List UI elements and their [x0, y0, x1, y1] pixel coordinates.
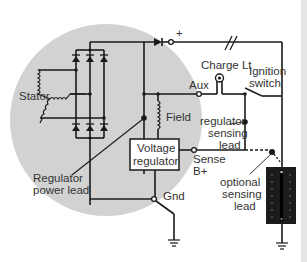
aux-label: Aux — [189, 79, 209, 91]
plus-label: + — [176, 27, 183, 39]
regulator-power-label-2: power lead — [33, 184, 89, 196]
optional-sensing-label-1: optional — [220, 176, 260, 188]
charge-lamp-icon — [216, 74, 224, 82]
regulator-sensing-label-2: sensing — [208, 127, 248, 139]
regulator-power-label-1: Regulator — [33, 172, 83, 184]
voltage-regulator-label-2: regulator — [133, 155, 179, 167]
voltage-regulator-label-1: Voltage — [137, 142, 175, 154]
regulator-sensing-label-1: regulator — [200, 115, 246, 127]
alternator-wiring-diagram: Stator + Aux Charge Lt Ignition switch r… — [0, 0, 307, 262]
sense-label-2: B+ — [193, 165, 208, 177]
sense-label-1: Sense — [193, 153, 226, 165]
stator-label: Stator — [19, 90, 50, 102]
optional-sensing-label-3: lead — [234, 200, 256, 212]
ground-icon — [168, 240, 180, 246]
plus-terminal — [169, 40, 174, 45]
charge-lt-label: Charge Lt — [201, 59, 252, 71]
gnd-label: Gnd — [163, 190, 185, 202]
ignition-switch-icon — [245, 88, 262, 96]
ignition-switch-label-1: Ignition — [249, 65, 286, 77]
aux-terminal — [197, 92, 202, 97]
optional-sensing-label-2: sensing — [222, 188, 262, 200]
ground-icon — [276, 243, 288, 249]
page-edge — [301, 0, 307, 262]
sense-terminal — [192, 148, 197, 153]
battery-icon — [266, 167, 296, 224]
field-label: Field — [166, 111, 191, 123]
ignition-switch-label-2: switch — [249, 77, 281, 89]
gnd-terminal — [152, 197, 157, 202]
